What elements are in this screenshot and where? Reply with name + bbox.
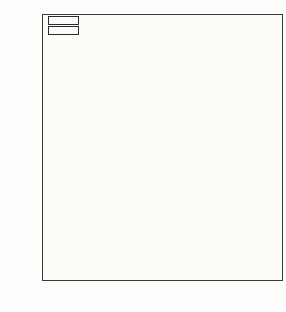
legend-item-developing (48, 16, 84, 25)
population-bar-chart (0, 0, 286, 312)
chart-legend (48, 16, 84, 35)
legend-item-developed (48, 26, 84, 35)
legend-swatch-developed (48, 26, 79, 35)
footnote-source (133, 296, 285, 305)
bar-group (43, 15, 282, 280)
legend-swatch-developing (48, 16, 79, 25)
